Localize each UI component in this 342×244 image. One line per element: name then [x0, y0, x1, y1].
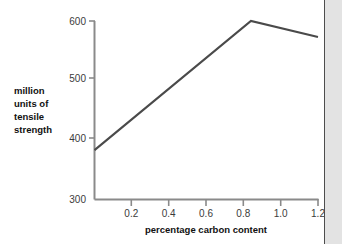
chart-figure: 600 500 400 300 0.2 0.4 0.6 0.8 1.0 1.2 … [0, 0, 342, 244]
data-series-line [95, 21, 319, 150]
y-axis-title-line-4: strength [14, 124, 52, 135]
y-axis-title-line-3: tensile [14, 111, 44, 122]
y-tick-label-300: 300 [69, 194, 86, 205]
x-tick-label-1-0: 1.0 [274, 208, 288, 219]
x-tick-label-0-6: 0.6 [199, 208, 213, 219]
x-axis-title: percentage carbon content [145, 224, 268, 235]
y-axis-title-line-2: units of [14, 98, 49, 109]
x-tick-label-0-2: 0.2 [124, 208, 138, 219]
y-tick-label-500: 500 [69, 73, 86, 84]
line-chart: 600 500 400 300 0.2 0.4 0.6 0.8 1.0 1.2 … [0, 0, 342, 244]
x-tick-label-0-8: 0.8 [236, 208, 250, 219]
y-tick-label-600: 600 [69, 16, 86, 27]
right-edge-panel [325, 0, 342, 244]
x-tick-label-0-4: 0.4 [162, 208, 176, 219]
y-axis-title: million units of tensile strength [14, 85, 52, 135]
y-tick-label-400: 400 [69, 133, 86, 144]
y-axis-title-line-1: million [14, 85, 45, 96]
